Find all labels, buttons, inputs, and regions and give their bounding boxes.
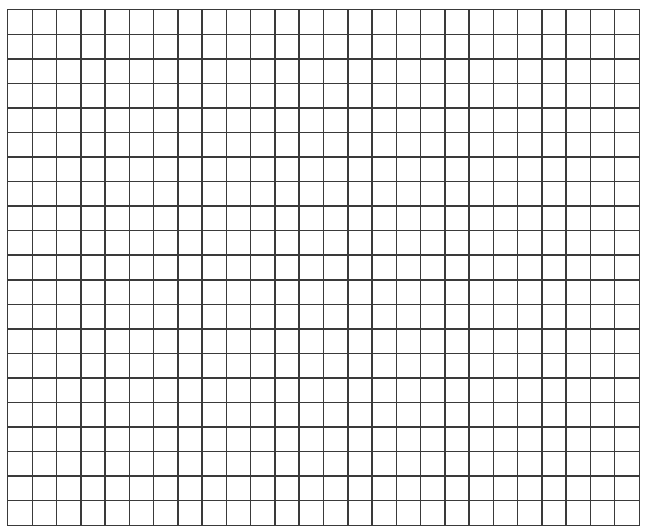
grid-lines xyxy=(8,10,639,525)
blank-grid xyxy=(7,9,640,526)
